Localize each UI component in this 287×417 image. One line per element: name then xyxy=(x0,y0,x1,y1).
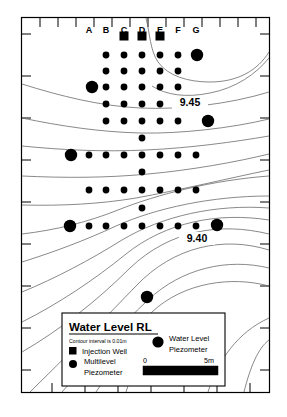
scale-min-label: 0 xyxy=(143,356,147,365)
legend-title: Water Level RL xyxy=(69,321,152,333)
legend-injection-well-label: Injection Well xyxy=(82,347,127,356)
injection-well-c xyxy=(120,32,129,41)
column-label-a: A xyxy=(86,25,93,35)
legend: Water Level RL Contour interval is 0.01m… xyxy=(62,313,225,386)
column-label-g: G xyxy=(192,25,199,35)
injection-well-markers xyxy=(120,32,165,41)
column-label-f: F xyxy=(175,25,181,35)
legend-multilevel-piezometer-label-line1: Multilevel xyxy=(84,357,116,366)
water-level-contour-figure: A B C D E F G xyxy=(0,0,287,417)
scale-max-label: 5m xyxy=(204,356,214,365)
legend-subtitle: Contour interval is 0.01m xyxy=(69,338,127,344)
map-svg: A B C D E F G xyxy=(0,0,287,417)
legend-multilevel-piezometer-label-line2: Piezometer xyxy=(84,368,123,377)
contour-label-940: 9.40 xyxy=(187,232,208,244)
injection-well-e xyxy=(156,32,165,41)
contour-label-945: 9.45 xyxy=(180,96,201,108)
legend-multilevel-piezometer-icon xyxy=(69,360,77,368)
scale-bar xyxy=(143,366,218,375)
legend-water-level-piezometer-icon xyxy=(152,336,163,347)
column-label-b: B xyxy=(103,25,110,35)
injection-well-d xyxy=(138,32,147,41)
legend-injection-well-icon xyxy=(69,347,77,355)
legend-water-level-piezometer-label-line2: Piezometer xyxy=(169,345,208,354)
legend-water-level-piezometer-label-line1: Water Level xyxy=(169,334,210,343)
